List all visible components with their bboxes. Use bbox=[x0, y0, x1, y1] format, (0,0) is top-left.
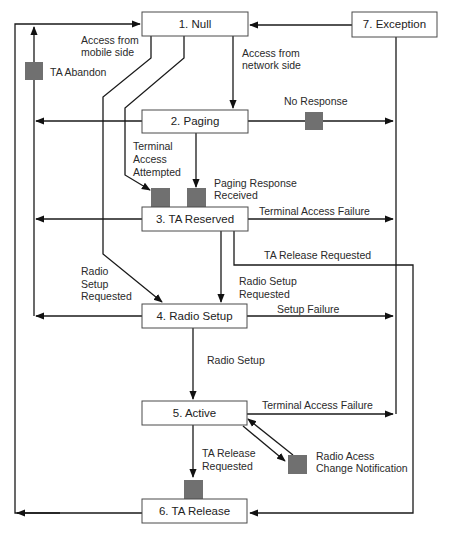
label-terminal-access-failure-3: Terminal Access Failure bbox=[259, 205, 370, 217]
label-terminal-access-attempted-3: Attempted bbox=[133, 166, 181, 178]
label-access-mobile-2: mobile side bbox=[81, 46, 134, 58]
state-exception: 7. Exception bbox=[352, 12, 437, 37]
label-paging-response-2: Received bbox=[214, 189, 258, 201]
label-radio-access-change-1: Radio Acess bbox=[316, 450, 374, 462]
state-active: 5. Active bbox=[142, 401, 247, 425]
state-ta-release: 6. TA Release bbox=[142, 499, 247, 523]
marker-radio-access-change bbox=[288, 455, 307, 474]
label-terminal-access-attempted-1: Terminal bbox=[133, 140, 173, 152]
label-access-mobile-1: Access from bbox=[81, 34, 139, 46]
label-ta-release-requested-5-2: Requested bbox=[202, 460, 253, 472]
label-radio-setup: Radio Setup bbox=[207, 354, 265, 366]
state-ta-reserved-label: 3. TA Reserved bbox=[156, 213, 234, 225]
label-terminal-access-attempted-2: Access bbox=[133, 153, 167, 165]
label-radio-setup-requested-left-2: Setup bbox=[81, 278, 109, 290]
label-radio-setup-requested-left-1: Radio bbox=[81, 265, 109, 277]
label-ta-abandon: TA Abandon bbox=[50, 66, 107, 78]
state-ta-reserved: 3. TA Reserved bbox=[142, 207, 248, 231]
marker-ta-abandon bbox=[25, 62, 43, 80]
state-diagram: 1. Null 2. Paging 3. TA Reserved 4. Radi… bbox=[0, 0, 449, 535]
label-access-network-2: network side bbox=[242, 59, 301, 71]
state-null-label: 1. Null bbox=[179, 18, 212, 30]
marker-terminal-access-attempted bbox=[151, 188, 170, 207]
label-access-network-1: Access from bbox=[242, 47, 300, 59]
label-setup-failure: Setup Failure bbox=[277, 303, 340, 315]
state-null: 1. Null bbox=[142, 12, 248, 36]
marker-paging-response bbox=[187, 188, 206, 207]
label-no-response: No Response bbox=[284, 95, 348, 107]
state-paging: 2. Paging bbox=[142, 110, 248, 133]
state-exception-label: 7. Exception bbox=[363, 18, 426, 30]
label-ta-release-requested-3: TA Release Requested bbox=[264, 249, 371, 261]
label-terminal-access-failure-5: Terminal Access Failure bbox=[262, 399, 373, 411]
marker-no-response bbox=[305, 112, 323, 130]
label-ta-release-requested-5-1: TA Release bbox=[202, 447, 256, 459]
label-radio-setup-requested-right-1: Radio Setup bbox=[239, 275, 297, 287]
state-radio-setup-label: 4. Radio Setup bbox=[156, 310, 232, 322]
marker-ta-release-requested bbox=[184, 480, 203, 499]
label-radio-access-change-2: Change Notification bbox=[316, 462, 408, 474]
state-paging-label: 2. Paging bbox=[171, 115, 220, 127]
label-paging-response-1: Paging Response bbox=[214, 177, 297, 189]
state-ta-release-label: 6. TA Release bbox=[159, 505, 230, 517]
state-active-label: 5. Active bbox=[173, 407, 216, 419]
label-radio-setup-requested-left-3: Requested bbox=[81, 290, 132, 302]
state-radio-setup: 4. Radio Setup bbox=[142, 304, 247, 328]
label-radio-setup-requested-right-2: Requested bbox=[239, 288, 290, 300]
